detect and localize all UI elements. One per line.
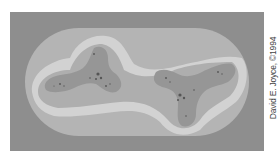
fractal-image — [10, 12, 264, 151]
fractal-graphic — [10, 12, 264, 151]
credit-text: David E. Joyce, ©1994 — [268, 37, 278, 119]
